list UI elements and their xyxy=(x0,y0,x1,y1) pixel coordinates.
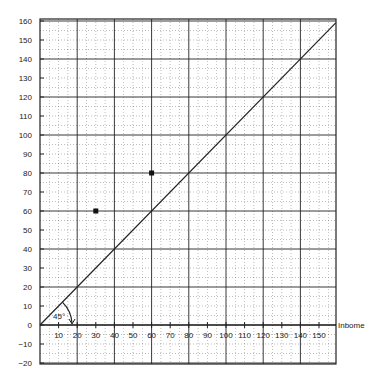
y-tick-label: 140 xyxy=(19,55,33,64)
y-tick-label: 110 xyxy=(19,112,32,121)
y-tick-label: −20 xyxy=(18,359,32,368)
x-tick-label: 140 xyxy=(294,331,308,340)
y-tick-label: 10 xyxy=(23,302,32,311)
y-tick-label: −10 xyxy=(18,340,32,349)
45-degree-line xyxy=(40,23,336,325)
chart: −20−100102030405060708090100110120130140… xyxy=(0,0,377,384)
y-tick-label: 90 xyxy=(23,150,32,159)
y-tick-label: 20 xyxy=(23,283,32,292)
x-tick-label: 150 xyxy=(312,331,326,340)
x-tick-label: 100 xyxy=(219,331,233,340)
x-tick-label: 130 xyxy=(275,331,289,340)
y-tick-label: 60 xyxy=(23,207,32,216)
x-tick-labels: 102030405060708090100110120130140150 xyxy=(54,331,326,340)
x-tick-label: 120 xyxy=(257,331,271,340)
angle-label: 45° xyxy=(53,312,65,321)
x-tick-label: 70 xyxy=(166,331,175,340)
y-tick-label: 0 xyxy=(28,321,33,330)
y-tick-label: 130 xyxy=(19,74,33,83)
plot-frame xyxy=(40,19,336,364)
y-tick-label: 100 xyxy=(19,131,33,140)
x-tick-label: 10 xyxy=(54,331,63,340)
y-tick-label: 80 xyxy=(23,169,32,178)
y-tick-label: 40 xyxy=(23,245,32,254)
y-tick-label: 70 xyxy=(23,188,32,197)
x-tick-label: 90 xyxy=(203,331,212,340)
x-axis-title: Inbome xyxy=(338,321,365,330)
x-tick-label: 60 xyxy=(147,331,156,340)
x-tick-label: 80 xyxy=(184,331,193,340)
y-tick-label: 30 xyxy=(23,264,32,273)
y-tick-label: 50 xyxy=(23,226,32,235)
x-tick-label: 20 xyxy=(73,331,82,340)
minor-grid xyxy=(40,19,336,364)
y-tick-label: 160 xyxy=(19,17,33,26)
data-point-marker xyxy=(93,209,98,214)
data-point-marker xyxy=(149,171,154,176)
x-tick-label: 110 xyxy=(238,331,251,340)
data-points xyxy=(93,171,154,214)
x-tick-label: 50 xyxy=(129,331,138,340)
y-tick-label: 120 xyxy=(19,93,33,102)
y-tick-label: 150 xyxy=(19,36,33,45)
x-tick-label: 40 xyxy=(110,331,119,340)
major-grid xyxy=(40,19,336,364)
x-tick-label: 30 xyxy=(91,331,100,340)
y-tick-labels: −20−100102030405060708090100110120130140… xyxy=(18,17,32,368)
